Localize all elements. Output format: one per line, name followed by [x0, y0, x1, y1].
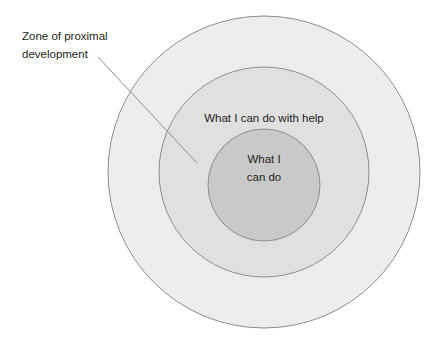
- what-i-can-do-with-help-label: What I can do with help: [204, 112, 324, 124]
- what-i-can-do-label-line-2: can do: [247, 171, 282, 183]
- what-i-can-do-label-line-1: What I: [247, 153, 280, 165]
- annotation-label-line-2: development: [22, 48, 89, 60]
- diagram-canvas: What I can do with help What I can do Zo…: [0, 0, 444, 348]
- annotation-label-line-1: Zone of proximal: [22, 30, 108, 42]
- zpd-diagram: What I can do with help What I can do Zo…: [0, 0, 444, 348]
- what-i-can-do-circle: [208, 129, 320, 241]
